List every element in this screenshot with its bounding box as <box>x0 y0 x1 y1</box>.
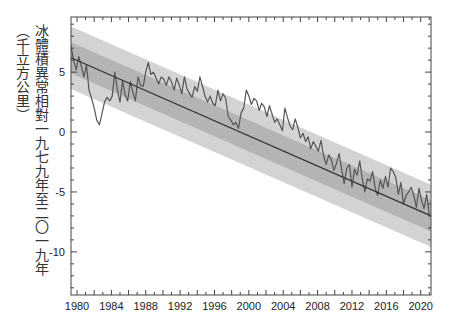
x-tick-label: 1984 <box>99 300 123 312</box>
x-tick-label: 1992 <box>168 300 192 312</box>
y-tick-label: 5 <box>59 66 65 78</box>
trend-line <box>71 58 431 216</box>
x-tick-label: 1988 <box>134 300 158 312</box>
x-tick-label: 2012 <box>340 300 364 312</box>
y-tick-label: -5 <box>55 186 65 198</box>
y-tick-label: -10 <box>49 246 65 258</box>
x-tick-label: 2000 <box>237 300 261 312</box>
ice-volume-anomaly-chart: 1980198419881992199620002004200820122016… <box>0 0 449 331</box>
x-tick-label: 1996 <box>202 300 226 312</box>
x-tick-label: 2004 <box>271 300 295 312</box>
x-tick-label: 2008 <box>305 300 329 312</box>
x-tick-label: 1980 <box>65 300 89 312</box>
x-tick-label: 2016 <box>374 300 398 312</box>
x-tick-label: 2020 <box>408 300 432 312</box>
y-tick-label: 0 <box>59 126 65 138</box>
